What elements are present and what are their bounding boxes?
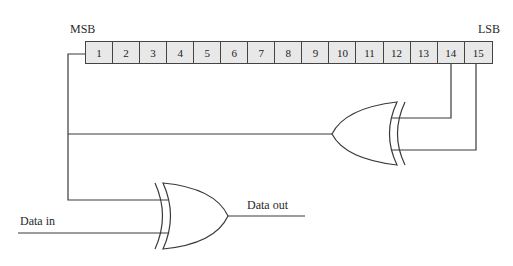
register-cell: 14 — [438, 42, 465, 63]
register-cell: 3 — [140, 42, 167, 63]
xor-gate-feedback — [332, 102, 405, 165]
data-in-label: Data in — [20, 214, 55, 229]
register-cell: 11 — [356, 42, 383, 63]
msb-feedback-wire — [68, 54, 170, 200]
register-cell: 6 — [221, 42, 248, 63]
tap-15-wire — [391, 64, 476, 150]
register-cell: 10 — [329, 42, 356, 63]
register-cell: 9 — [302, 42, 329, 63]
shift-register: 1 2 3 4 5 6 7 8 9 10 11 12 13 14 15 — [85, 41, 493, 64]
register-cell: 15 — [465, 42, 492, 63]
data-out-label: Data out — [247, 198, 288, 213]
register-cell: 12 — [384, 42, 411, 63]
tap-14-wire — [391, 64, 451, 118]
register-cell: 13 — [411, 42, 438, 63]
lfsr-wiring — [0, 0, 513, 266]
register-cell: 5 — [194, 42, 221, 63]
xor-gate-data — [155, 183, 228, 249]
register-cell: 8 — [275, 42, 302, 63]
register-cell: 2 — [113, 42, 140, 63]
register-cell: 4 — [167, 42, 194, 63]
register-cell: 7 — [248, 42, 275, 63]
lsb-label: LSB — [478, 22, 500, 37]
register-cell: 1 — [86, 42, 113, 63]
msb-label: MSB — [70, 22, 95, 37]
